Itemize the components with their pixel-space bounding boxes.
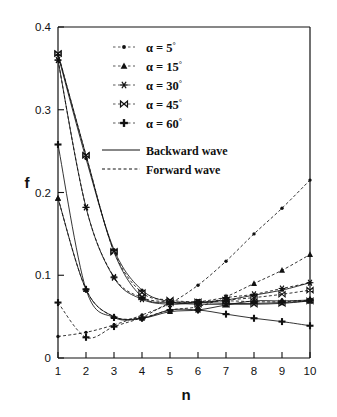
series-line (58, 180, 310, 336)
plus-marker (223, 311, 230, 318)
legend-label: Forward wave (146, 163, 221, 177)
x-tick-label: 8 (251, 365, 257, 377)
legend-label: α = 15° (146, 60, 182, 74)
dot-marker (84, 331, 87, 334)
series-0 (56, 53, 311, 304)
degree-symbol: ° (179, 117, 182, 126)
plus-marker (279, 318, 286, 325)
series-line (58, 60, 310, 304)
dot-marker (308, 178, 311, 181)
legend-wave-solid: Backward wave (102, 144, 228, 158)
legend-label: α = 30° (146, 79, 182, 93)
series-7 (55, 51, 313, 305)
plus-marker (251, 315, 258, 322)
legend-item-dot: α = 5° (113, 41, 176, 55)
legend-item-bowtie: α = 45° (113, 98, 182, 112)
legend-wave-dashed: Forward wave (102, 163, 221, 177)
asterisk-marker (120, 82, 128, 88)
line-chart-canvas: 00.10.20.30.4 12345678910 f n α = 5°α = … (0, 0, 337, 417)
legend-label: Backward wave (146, 144, 228, 158)
degree-symbol: ° (173, 41, 176, 50)
series-1 (56, 178, 311, 338)
y-axis-tick-labels: 00.10.20.30.4 (35, 21, 52, 364)
x-tick-label: 7 (223, 365, 229, 377)
x-tick-label: 9 (279, 365, 285, 377)
dot-marker (122, 45, 126, 49)
series-line (58, 198, 310, 319)
legend-item-plus: α = 60° (113, 117, 182, 131)
asterisk-marker (111, 274, 118, 280)
legend-label: α = 5° (146, 41, 176, 55)
dot-marker (280, 207, 283, 210)
plus-marker (55, 299, 62, 306)
degree-symbol: ° (179, 60, 182, 69)
y-tick-label: 0.2 (35, 187, 51, 199)
triangle-marker (307, 251, 313, 257)
x-tick-label: 6 (195, 365, 201, 377)
plus-marker (120, 119, 128, 127)
x-axis-title: n (181, 386, 190, 403)
series-6 (55, 51, 313, 307)
legend-label: α = 45° (146, 98, 182, 112)
chart-legend: α = 5°α = 15°α = 30°α = 45°α = 60°Backwa… (102, 41, 228, 177)
triangle-marker (121, 62, 128, 68)
x-tick-label: 4 (139, 365, 146, 377)
dot-marker (56, 335, 59, 338)
series-line (58, 55, 310, 303)
plus-marker (55, 141, 62, 148)
y-tick-label: 0.1 (35, 269, 51, 281)
chart-figure: 00.10.20.30.4 12345678910 f n α = 5°α = … (0, 0, 337, 417)
x-tick-label: 10 (304, 365, 317, 377)
data-series-layer (55, 51, 314, 341)
series-line (58, 300, 310, 338)
plus-marker (279, 298, 286, 305)
series-line (58, 53, 310, 304)
asterisk-marker (83, 205, 90, 211)
y-tick-label: 0 (45, 352, 51, 364)
series-line (58, 60, 310, 302)
series-line (58, 53, 310, 301)
dot-marker (252, 232, 255, 235)
y-tick-label: 0.3 (35, 104, 51, 116)
y-axis-title: f (25, 174, 31, 191)
dot-marker (196, 283, 199, 286)
triangle-marker (55, 195, 61, 201)
x-axis-ticks (58, 352, 310, 358)
y-tick-label: 0.4 (35, 21, 52, 33)
triangle-marker (279, 267, 285, 273)
bowtie-marker (121, 101, 128, 107)
degree-symbol: ° (179, 98, 182, 107)
triangle-marker (251, 280, 257, 286)
plus-marker (83, 286, 90, 293)
x-tick-label: 5 (167, 365, 173, 377)
plus-marker (83, 334, 90, 341)
dot-marker (224, 259, 227, 262)
plus-marker (307, 322, 314, 329)
legend-item-triangle: α = 15° (113, 60, 182, 74)
degree-symbol: ° (179, 79, 182, 88)
x-tick-label: 3 (111, 365, 117, 377)
x-tick-label: 2 (83, 365, 89, 377)
legend-item-asterisk: α = 30° (113, 79, 182, 93)
x-tick-label: 1 (55, 365, 61, 377)
legend-label: α = 60° (146, 117, 182, 131)
x-axis-tick-labels: 12345678910 (55, 365, 317, 377)
